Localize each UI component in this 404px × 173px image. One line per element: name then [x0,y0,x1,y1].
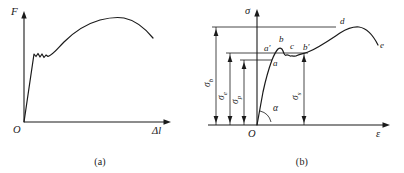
sigma-b-dim-arrow-top [214,29,219,36]
panel-a-caption: (a) [0,156,200,167]
epsilon-axis-label: ε [376,128,381,139]
x-axis-arrowhead [164,119,172,124]
sigma-b-dim-arrow-bottom [214,116,219,123]
sigma-e-label: σe [216,92,229,100]
origin-label: O [248,128,256,139]
angle-alpha-arc [260,111,271,122]
sigma-s-dim-arrow-bottom [302,116,307,123]
point-d-label: d [340,16,345,26]
sigma-axis-label: σ [245,5,251,16]
panel-force-elongation: F Δl O (a) [0,0,200,173]
point-a-prime-label: a′ [264,43,272,53]
chart-force-elongation: F Δl O [0,0,200,150]
angle-alpha-label: α [273,103,279,113]
y-axis-arrowhead [21,11,26,19]
sigma-b-label: σb [202,78,215,87]
sigma-axis-arrowhead [254,9,259,17]
figure-root: F Δl O (a) σb [0,0,404,173]
sigma-s-label: σs [290,92,303,100]
force-elongation-curve [24,18,153,122]
point-c-label: c [290,41,294,51]
chart-stress-strain: σb σe σp σs [200,0,404,150]
sigma-p-dim-arrow-bottom [242,116,247,123]
x-axis-label: Δl [151,125,161,136]
sigma-e-dim-arrow-top [228,55,233,62]
panel-stress-strain: σb σe σp σs [200,0,404,173]
origin-label: O [13,124,21,135]
sigma-e-dim-arrow-bottom [228,116,233,123]
point-b-prime-label: b′ [303,42,311,52]
point-b-label: b [279,34,284,44]
sigma-p-label: σp [230,95,243,104]
point-a-label: a [273,58,278,68]
panel-b-caption: (b) [200,156,404,167]
sigma-p-dim-arrow-top [242,62,247,69]
sigma-s-dim-arrow-top [302,55,307,62]
point-e-label: e [380,40,384,50]
epsilon-axis-arrowhead [383,122,391,127]
y-axis-label: F [10,5,18,17]
